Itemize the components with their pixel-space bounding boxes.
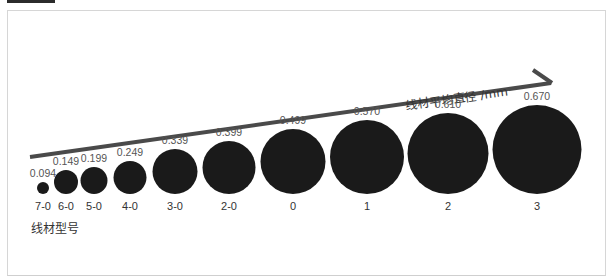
gauge-label: 2-0 <box>221 200 237 212</box>
wire-circle <box>203 141 256 194</box>
wire-circle <box>54 170 78 194</box>
gauge-label: 6-0 <box>58 200 74 212</box>
category-caption: 线材型号 <box>31 219 79 236</box>
wire-item: 0.6703 <box>493 90 582 212</box>
wire-item: 0.5701 <box>330 105 404 212</box>
wire-circle <box>261 129 326 194</box>
wire-circle <box>153 149 198 194</box>
wire-diameter-diagram: 线材平均直径 /mm 0.0947-00.1496-00.1995-00.249… <box>0 0 613 277</box>
diameter-value: 0.570 <box>354 105 380 117</box>
diameter-value: 0.149 <box>53 155 79 167</box>
gauge-label: 2 <box>445 200 451 212</box>
wire-item: 0.2494-0 <box>114 146 147 212</box>
wire-circle <box>493 105 582 194</box>
diameter-value: 0.094 <box>30 167 56 179</box>
diameter-value: 0.399 <box>216 126 242 138</box>
wire-circle <box>81 167 108 194</box>
diameter-value: 0.499 <box>280 114 306 126</box>
wire-item: 0.1496-0 <box>53 155 79 212</box>
wire-circle <box>37 182 49 194</box>
diameter-value: 0.339 <box>162 134 188 146</box>
wire-item: 0.3992-0 <box>203 126 256 212</box>
wire-item: 0.1995-0 <box>81 152 108 212</box>
diameter-value: 0.610 <box>435 98 461 110</box>
diameter-value: 0.249 <box>117 146 143 158</box>
wire-circle <box>330 120 404 194</box>
wire-circle <box>114 161 147 194</box>
gauge-label: 5-0 <box>86 200 102 212</box>
gauge-label: 3-0 <box>167 200 183 212</box>
wire-circle <box>408 113 489 194</box>
wire-item: 0.3393-0 <box>153 134 198 212</box>
wire-item: 0.4990 <box>261 114 326 212</box>
gauge-label: 7-0 <box>35 200 51 212</box>
wire-circles: 0.0947-00.1496-00.1995-00.2494-00.3393-0… <box>30 90 582 212</box>
diameter-value: 0.670 <box>524 90 550 102</box>
gauge-label: 4-0 <box>122 200 138 212</box>
diameter-value: 0.199 <box>81 152 107 164</box>
gauge-label: 1 <box>364 200 370 212</box>
wire-item: 0.6102 <box>408 98 489 212</box>
gauge-label: 0 <box>290 200 296 212</box>
wire-item: 0.0947-0 <box>30 167 56 212</box>
gauge-label: 3 <box>534 200 540 212</box>
